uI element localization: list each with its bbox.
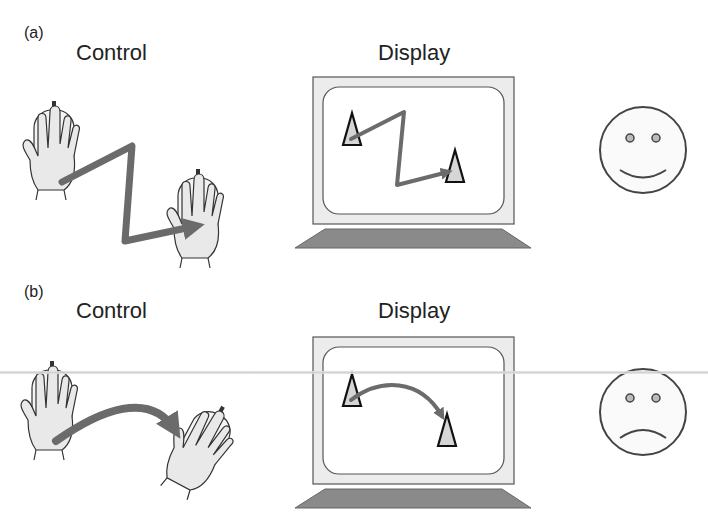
panel-b-hand-start-icon (21, 361, 77, 460)
panel-a-hand-end-icon (167, 169, 223, 268)
panel-b-monitor-icon (295, 337, 531, 508)
panel-b-hand-end-icon (149, 392, 245, 506)
smiley-face-icon (600, 107, 686, 193)
panel-a-monitor-icon (295, 77, 531, 248)
panel-a-hand-start-icon (23, 101, 79, 200)
scan-artifact-line (0, 371, 708, 374)
frowning-face-icon (600, 369, 686, 455)
panel-a-control-zigzag-arrow (62, 146, 196, 241)
panel-b-control-arc-arrow (56, 408, 175, 441)
diagram-canvas (0, 0, 708, 524)
